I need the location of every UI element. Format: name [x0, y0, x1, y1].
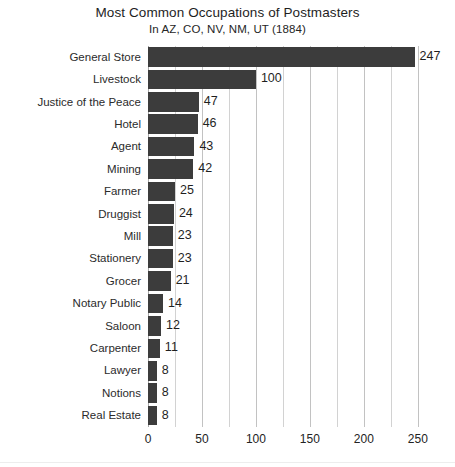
- value-tick-label: 0: [145, 431, 152, 447]
- bar-value-label: 23: [178, 250, 192, 267]
- category-label: Farmer: [0, 184, 141, 199]
- category-label: Mining: [0, 162, 141, 177]
- bar-row[interactable]: 100: [148, 68, 434, 90]
- bar-value-label: 42: [198, 160, 212, 177]
- chart-title: Most Common Occupations of Postmasters: [0, 4, 455, 21]
- bar-value-label: 21: [176, 272, 190, 289]
- bar-row[interactable]: 8: [148, 360, 434, 382]
- scan-artifact: [0, 462, 455, 463]
- bar[interactable]: [148, 70, 256, 90]
- bar[interactable]: [148, 159, 193, 179]
- category-label: Livestock: [0, 72, 141, 87]
- bar-row[interactable]: 12: [148, 315, 434, 337]
- bar-row[interactable]: 23: [148, 225, 434, 247]
- bar-row[interactable]: 11: [148, 337, 434, 359]
- category-label: Druggist: [0, 207, 141, 222]
- bar[interactable]: [148, 204, 174, 224]
- category-label: Notary Public: [0, 296, 141, 311]
- bar-value-label: 8: [162, 384, 169, 401]
- bar-row[interactable]: 14: [148, 293, 434, 315]
- bar[interactable]: [148, 271, 171, 291]
- bar-row[interactable]: 25: [148, 180, 434, 202]
- bar[interactable]: [148, 137, 194, 157]
- bar-value-label: 100: [261, 70, 282, 87]
- bar-value-label: 47: [204, 93, 218, 110]
- category-label: Lawyer: [0, 363, 141, 378]
- bar[interactable]: [148, 114, 198, 134]
- value-tick-label: 50: [195, 431, 208, 447]
- value-tick-label: 250: [408, 431, 428, 447]
- bar-value-label: 43: [199, 138, 213, 155]
- bar-row[interactable]: 8: [148, 405, 434, 427]
- category-label: Saloon: [0, 319, 141, 334]
- category-label: Mill: [0, 229, 141, 244]
- bar[interactable]: [148, 47, 415, 67]
- category-label: General Store: [0, 50, 141, 65]
- chart-subtitle: In AZ, CO, NV, NM, UT (1884): [0, 22, 455, 37]
- bar-value-label: 12: [166, 317, 180, 334]
- bar-value-label: 247: [420, 48, 441, 65]
- category-label: Real Estate: [0, 408, 141, 423]
- bar-row[interactable]: 8: [148, 382, 434, 404]
- category-label: Grocer: [0, 274, 141, 289]
- bar-row[interactable]: 21: [148, 270, 434, 292]
- bar[interactable]: [148, 182, 175, 202]
- bar-value-label: 24: [179, 205, 193, 222]
- chart-title-block: Most Common Occupations of Postmasters I…: [0, 4, 455, 37]
- bar-value-label: 8: [162, 362, 169, 379]
- bar-row[interactable]: 46: [148, 113, 434, 135]
- category-label: Justice of the Peace: [0, 95, 141, 110]
- value-tick-label: 100: [246, 431, 266, 447]
- bar-value-label: 11: [165, 339, 178, 356]
- bar[interactable]: [148, 339, 160, 359]
- plot-area: 247100474643422524232321141211888: [148, 46, 434, 427]
- bar-row[interactable]: 43: [148, 136, 434, 158]
- value-tick-label: 200: [354, 431, 374, 447]
- bar[interactable]: [148, 383, 157, 403]
- bar-row[interactable]: 247: [148, 46, 434, 68]
- bar[interactable]: [148, 249, 173, 269]
- category-label: Carpenter: [0, 341, 141, 356]
- bar-value-label: 23: [178, 227, 192, 244]
- bar[interactable]: [148, 226, 173, 246]
- category-axis-labels: General StoreLivestockJustice of the Pea…: [0, 46, 141, 427]
- bar[interactable]: [148, 316, 161, 336]
- bar[interactable]: [148, 92, 199, 112]
- bar-row[interactable]: 23: [148, 248, 434, 270]
- bar[interactable]: [148, 361, 157, 381]
- bar-value-label: 25: [180, 182, 194, 199]
- category-label: Hotel: [0, 117, 141, 132]
- bar-row[interactable]: 24: [148, 203, 434, 225]
- category-label: Notions: [0, 386, 141, 401]
- bar-value-label: 14: [168, 295, 182, 312]
- bar[interactable]: [148, 294, 163, 314]
- category-label: Agent: [0, 139, 141, 154]
- bar-value-label: 8: [162, 407, 169, 424]
- bar-value-label: 46: [203, 115, 217, 132]
- bar-row[interactable]: 42: [148, 158, 434, 180]
- category-label: Stationery: [0, 251, 141, 266]
- bar[interactable]: [148, 406, 157, 426]
- bar-series: 247100474643422524232321141211888: [148, 46, 434, 427]
- bar-row[interactable]: 47: [148, 91, 434, 113]
- value-axis-tick-labels: 050100150200250: [148, 431, 448, 451]
- value-tick-label: 150: [300, 431, 320, 447]
- bar-chart: Most Common Occupations of Postmasters I…: [0, 0, 455, 467]
